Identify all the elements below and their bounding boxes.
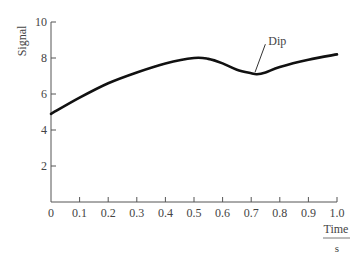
x-tick-label: 0.8 (272, 206, 287, 220)
x-tick-label: 0.2 (101, 206, 116, 220)
x-axis-unit: s (335, 242, 339, 254)
annotation-label: Dip (268, 34, 286, 48)
x-tick-label: 0 (48, 206, 54, 220)
x-tick-label: 0.6 (215, 206, 230, 220)
x-tick-label: 1.0 (330, 206, 345, 220)
x-tick-label: 0.4 (158, 206, 173, 220)
y-tick-label: 4 (41, 123, 47, 137)
y-tick-label: 2 (41, 159, 47, 173)
line-chart: 00.10.20.30.40.50.60.70.80.91.0246810 Di… (0, 0, 362, 259)
y-axis-label: Signal (15, 25, 29, 56)
y-tick-label: 8 (41, 51, 47, 65)
y-tick-label: 10 (35, 15, 47, 29)
signal-line (51, 54, 337, 113)
x-tick-label: 0.7 (244, 206, 259, 220)
axes (51, 22, 337, 202)
x-tick-label: 0.1 (72, 206, 87, 220)
x-tick-label: 0.9 (301, 206, 316, 220)
x-tick-label: 0.3 (129, 206, 144, 220)
ticks: 00.10.20.30.40.50.60.70.80.91.0246810 (35, 15, 345, 220)
annotation-leader-line (255, 44, 265, 72)
y-tick-label: 6 (41, 87, 47, 101)
x-axis-label: Time (324, 222, 349, 236)
x-tick-label: 0.5 (187, 206, 202, 220)
